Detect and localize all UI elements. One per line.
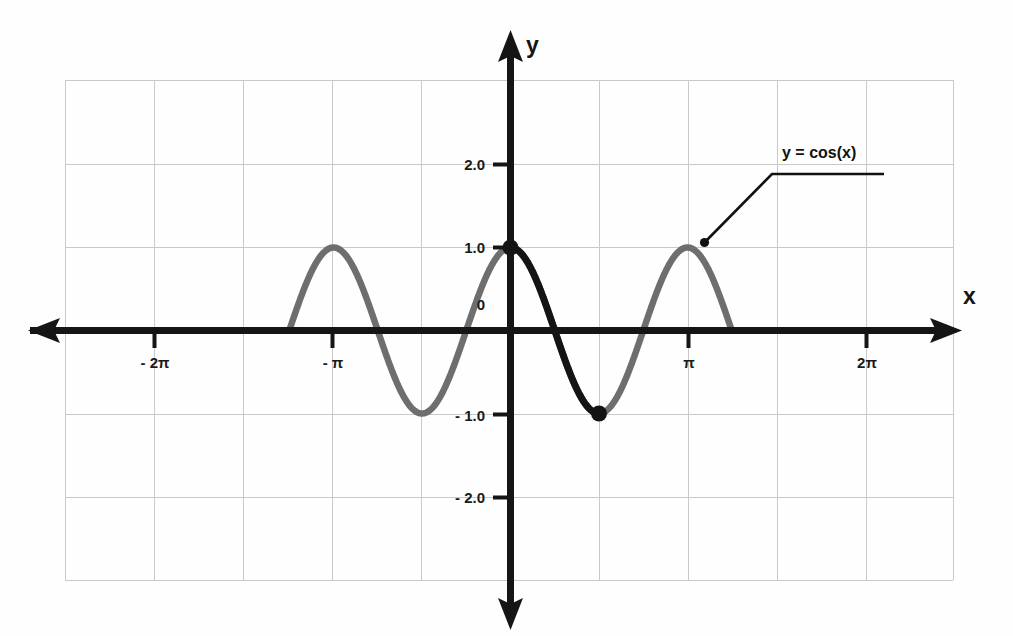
cosine-graph-figure: y x 2.0 1.0 0 - 1.0 - 2.0 - 2π - π π 2π … — [0, 0, 1013, 636]
x-tick-label-neg2pi: - 2π — [110, 355, 200, 370]
y-axis-label: y — [526, 34, 539, 57]
y-tick-label-neg2: - 2.0 — [400, 490, 485, 505]
y-tick-label-0: 0 — [400, 297, 485, 312]
x-tick-label-pi: π — [644, 355, 734, 370]
y-tick-label-neg1: - 1.0 — [400, 408, 485, 423]
marked-point-origin-max — [503, 240, 519, 256]
x-tick-label-negpi: - π — [288, 355, 378, 370]
marked-point-pi-min — [591, 406, 607, 422]
axes — [28, 30, 962, 630]
y-tick-label-1: 1.0 — [400, 240, 485, 255]
x-tick-label-2pi: 2π — [822, 355, 912, 370]
annotation-leader-line — [700, 174, 884, 247]
y-tick-label-2: 2.0 — [400, 157, 485, 172]
plot-canvas — [0, 0, 1013, 636]
series-annotation-label: y = cos(x) — [782, 145, 856, 161]
x-axis-label: x — [963, 285, 976, 308]
